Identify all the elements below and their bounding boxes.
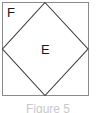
inner-region-label: E [41, 43, 50, 56]
figure-root: F E Figure 5 [0, 0, 96, 113]
figure-caption-text: Figure 5 [26, 103, 70, 113]
figure-caption: Figure 5 [0, 99, 96, 113]
outer-region-label: F [7, 6, 15, 19]
diagram-area: F E [0, 0, 96, 99]
